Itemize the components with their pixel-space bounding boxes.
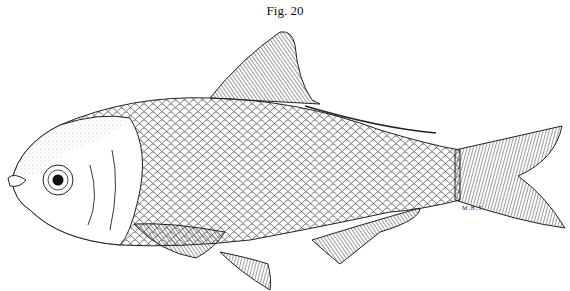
pupil [53, 175, 64, 186]
pelvic-fin [220, 252, 271, 290]
artist-signature: M.B.T. [462, 205, 485, 211]
fish-illustration [0, 0, 570, 291]
caudal-fin [455, 126, 565, 228]
dorsal-fin [210, 32, 320, 104]
